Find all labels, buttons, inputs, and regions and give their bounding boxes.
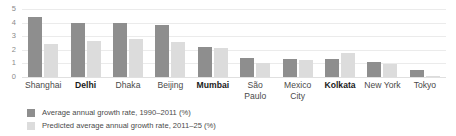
bar-group [276, 9, 318, 77]
legend-swatch-icon [27, 109, 35, 117]
x-axis-label: Tokyo [404, 80, 446, 106]
bar-group [361, 9, 403, 77]
bar [87, 41, 101, 77]
x-axis-label: Dhaka [107, 80, 149, 106]
bar-group [64, 9, 106, 77]
bar [325, 59, 339, 77]
bar-groups [22, 9, 446, 77]
bar [341, 53, 355, 77]
bar [283, 59, 297, 77]
x-axis-label: Shanghai [22, 80, 64, 106]
legend-item[interactable]: Average annual growth rate, 1990–2011 (%… [27, 106, 216, 119]
bar [256, 63, 270, 77]
legend-label: Predicted average annual growth rate, 20… [42, 122, 216, 130]
bar-group [234, 9, 276, 77]
x-axis-label: Mexico City [276, 80, 318, 106]
x-axis-label: Beijing [149, 80, 191, 106]
bar-group [107, 9, 149, 77]
x-axis-label: Delhi [64, 80, 106, 106]
bar [28, 17, 42, 77]
y-axis-tick: 4 [12, 19, 16, 27]
y-axis-tick: 3 [12, 32, 16, 40]
y-axis-tick: 2 [12, 46, 16, 54]
bar [426, 76, 440, 77]
bar [129, 39, 143, 77]
plot-area [22, 9, 446, 77]
bar-group [192, 9, 234, 77]
bar [44, 44, 58, 77]
bar [198, 47, 212, 77]
y-axis: 543210 [0, 9, 20, 77]
bar-group [404, 9, 446, 77]
bar [410, 70, 424, 77]
x-axis-labels: ShanghaiDelhiDhakaBeijingMumbaiSão Paulo… [22, 80, 446, 106]
x-axis-label: New York [361, 80, 403, 106]
bar-group [149, 9, 191, 77]
bar [71, 23, 85, 77]
bar [240, 58, 254, 77]
gridline [22, 77, 446, 78]
bar [383, 64, 397, 77]
bar [113, 23, 127, 77]
x-axis-label: São Paulo [234, 80, 276, 106]
y-axis-tick: 0 [12, 73, 16, 81]
legend-item[interactable]: Predicted average annual growth rate, 20… [27, 119, 216, 132]
bar-chart: 543210 ShanghaiDelhiDhakaBeijingMumbaiSã… [0, 0, 456, 136]
bar-group [22, 9, 64, 77]
x-axis-label: Kolkata [319, 80, 361, 106]
bar [214, 48, 228, 77]
bar [171, 42, 185, 77]
chart-legend: Average annual growth rate, 1990–2011 (%… [27, 106, 216, 132]
legend-swatch-icon [27, 122, 35, 130]
bar-group [319, 9, 361, 77]
bar [299, 60, 313, 77]
legend-label: Average annual growth rate, 1990–2011 (%… [42, 109, 191, 117]
y-axis-tick: 5 [12, 5, 16, 13]
x-axis-label: Mumbai [192, 80, 234, 106]
bar [367, 62, 381, 77]
y-axis-tick: 1 [12, 60, 16, 68]
bar [155, 25, 169, 77]
